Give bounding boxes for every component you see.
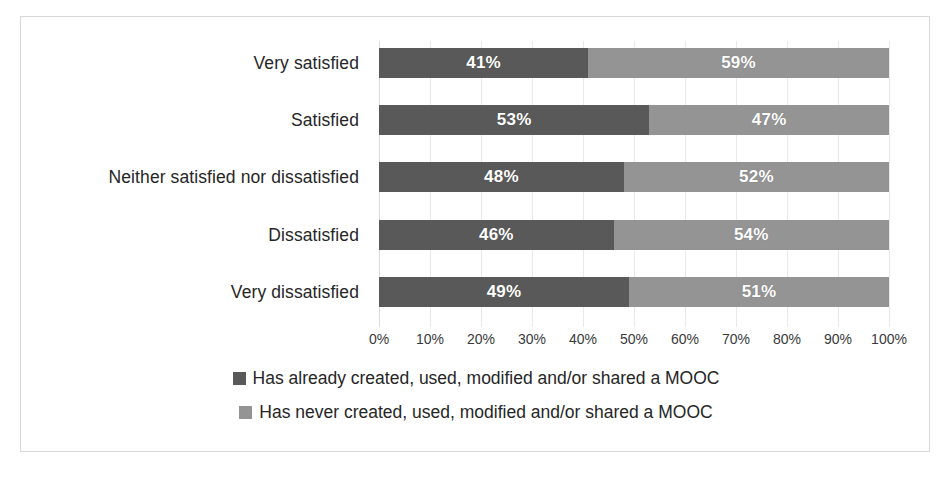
axis-tick-label: 20% (467, 331, 495, 347)
category-label: Dissatisfied (268, 223, 359, 247)
category-label: Neither satisfied nor dissatisfied (109, 165, 359, 189)
category-axis: Very satisfiedSatisfiedNeither satisfied… (21, 41, 371, 327)
bar-segment-series-2[interactable]: 47% (649, 105, 889, 135)
bar-segment-series-2[interactable]: 54% (614, 220, 889, 250)
axis-tick-label: 10% (416, 331, 444, 347)
axis-tick-label: 0% (369, 331, 389, 347)
bar-data-label: 46% (479, 225, 514, 245)
bar-segment-series-1[interactable]: 48% (379, 162, 624, 192)
category-label: Satisfied (291, 108, 359, 132)
legend-label: Has already created, used, modified and/… (253, 368, 720, 389)
chart-legend: Has already created, used, modified and/… (21, 361, 931, 429)
bar-row[interactable]: 41%59% (379, 48, 889, 78)
gridline (889, 41, 890, 327)
chart-figure-frame: Very satisfiedSatisfiedNeither satisfied… (20, 16, 930, 452)
stacked-bar-chart: Very satisfiedSatisfiedNeither satisfied… (21, 17, 931, 453)
bar-row[interactable]: 53%47% (379, 105, 889, 135)
bar-data-label: 48% (484, 167, 519, 187)
axis-tick-label: 60% (671, 331, 699, 347)
bar-data-label: 51% (742, 282, 777, 302)
legend-item-2[interactable]: Has never created, used, modified and/or… (21, 395, 931, 429)
bar-data-label: 49% (487, 282, 522, 302)
bar-data-label: 47% (752, 110, 787, 130)
axis-tick-label: 50% (620, 331, 648, 347)
category-label: Very satisfied (254, 51, 359, 75)
legend-swatch-icon (233, 372, 246, 385)
bar-row[interactable]: 49%51% (379, 277, 889, 307)
bar-data-label: 52% (739, 167, 774, 187)
bar-row[interactable]: 48%52% (379, 162, 889, 192)
bar-data-label: 53% (497, 110, 532, 130)
bar-segment-series-1[interactable]: 49% (379, 277, 629, 307)
axis-tick-label: 40% (569, 331, 597, 347)
bar-segment-series-2[interactable]: 51% (629, 277, 889, 307)
bar-segment-series-2[interactable]: 52% (624, 162, 889, 192)
category-label: Very dissatisfied (231, 280, 359, 304)
bar-data-label: 41% (466, 53, 501, 73)
bar-segment-series-2[interactable]: 59% (588, 48, 889, 78)
axis-tick-label: 80% (773, 331, 801, 347)
axis-tick-label: 90% (824, 331, 852, 347)
legend-item-1[interactable]: Has already created, used, modified and/… (21, 361, 931, 395)
value-axis: 0%10%20%30%40%50%60%70%80%90%100% (379, 329, 889, 355)
axis-tick-label: 30% (518, 331, 546, 347)
bar-segment-series-1[interactable]: 53% (379, 105, 649, 135)
bar-segment-series-1[interactable]: 41% (379, 48, 588, 78)
bar-data-label: 54% (734, 225, 769, 245)
bar-data-label: 59% (721, 53, 756, 73)
axis-tick-label: 70% (722, 331, 750, 347)
plot-area: 41%59%53%47%48%52%46%54%49%51% (379, 41, 889, 327)
legend-label: Has never created, used, modified and/or… (259, 402, 712, 423)
axis-tick-label: 100% (871, 331, 907, 347)
bar-segment-series-1[interactable]: 46% (379, 220, 614, 250)
bar-row[interactable]: 46%54% (379, 220, 889, 250)
legend-swatch-icon (239, 406, 252, 419)
